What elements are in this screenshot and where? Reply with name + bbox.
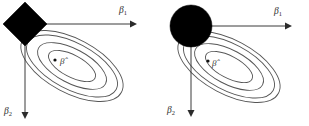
beta2-axis-label: β2: [3, 106, 12, 117]
lasso-ridge-figure: β̂ β1 β2 β̂: [0, 0, 309, 126]
l1-constraint-diamond: [3, 2, 47, 46]
beta1-arrow-head: [285, 23, 292, 30]
beta-hat-label: β̂: [211, 58, 220, 68]
beta-hat-label: β̂: [59, 56, 68, 66]
beta2-arrow-head: [188, 110, 195, 117]
beta-hat-point: [53, 58, 56, 61]
panel-lasso: β̂ β1 β2: [0, 0, 155, 126]
beta1-axis-label: β1: [273, 6, 282, 17]
l2-constraint-circle: [170, 5, 212, 47]
beta1-arrow-head: [130, 21, 137, 28]
panel-ridge: β̂ β1 β2: [155, 0, 309, 126]
beta2-arrow-head: [22, 112, 29, 119]
beta-hat-point: [206, 59, 209, 62]
contour-ellipse: [30, 33, 113, 99]
beta2-axis-label: β2: [166, 105, 175, 116]
beta1-axis-label: β1: [118, 5, 127, 16]
